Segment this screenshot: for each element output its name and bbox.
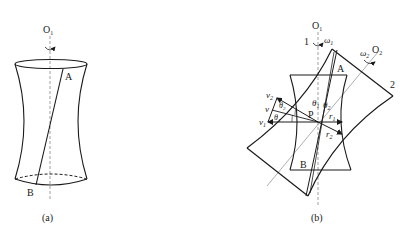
h2-bottom-edge [247, 148, 308, 196]
bottom-ellipse-back [15, 174, 87, 179]
figure-b-crossed-hyperboloids [247, 32, 393, 205]
contact-line-ab [306, 50, 337, 196]
right-profile [78, 64, 87, 179]
caption-a: (a) [42, 212, 53, 224]
h2-lower-profile [308, 96, 393, 196]
label-o1-b: O1 [312, 20, 322, 32]
label-omega1: ω1 [324, 35, 333, 46]
label-point-p: P [308, 109, 314, 120]
top-ellipse [15, 60, 87, 69]
label-o2: O2 [372, 44, 382, 56]
label-b: B [27, 187, 34, 198]
caption-b: (b) [311, 212, 323, 224]
theta1-arc [292, 115, 293, 122]
figure-a-hyperboloid [15, 36, 87, 200]
h1-right [341, 75, 351, 170]
diagram-canvas: O1 A B (a) O1 1 ω1 ω2 [0, 0, 405, 239]
label-theta1-angle: θ1 [274, 113, 280, 123]
label-point-a: A [337, 63, 345, 74]
label-v: v [265, 104, 269, 114]
left-profile [15, 64, 24, 179]
label-body-2: 2 [390, 79, 395, 90]
label-v2: v2 [266, 90, 273, 101]
label-omega2: ω2 [360, 48, 369, 59]
label-body-1: 1 [304, 36, 309, 47]
label-point-b: B [300, 159, 307, 170]
label-theta2-top: θ2 [323, 100, 330, 111]
label-r2: r2 [326, 129, 333, 140]
label-r1: r1 [329, 111, 336, 122]
vector-r2 [318, 122, 342, 134]
label-v1: v1 [259, 117, 266, 128]
label-o1-a: O1 [43, 24, 53, 36]
generator-line-ab [36, 69, 63, 185]
bottom-ellipse-front [15, 179, 87, 185]
label-a: A [65, 71, 73, 82]
